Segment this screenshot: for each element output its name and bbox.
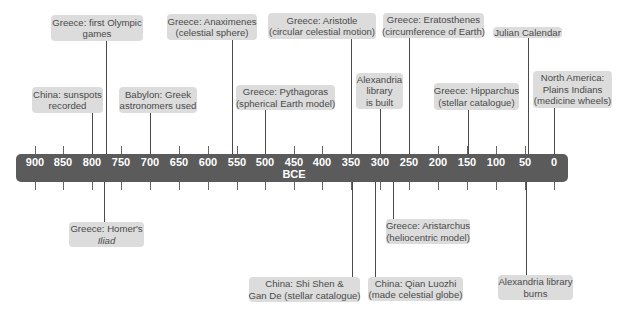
event-text: (medicine wheels): [534, 95, 611, 107]
tick-label: 800: [77, 156, 107, 168]
tick-label: 100: [481, 156, 511, 168]
event-greece-homers-iliad: Greece: Homer's Iliad: [69, 222, 144, 247]
tick: [265, 182, 266, 190]
event-greece-aristotle: Greece: Aristotle (circular celestial mo…: [268, 13, 376, 39]
event-text: Greece: Aristarchus: [386, 220, 470, 232]
tick: [121, 146, 122, 154]
event-text: China: sunspots: [33, 89, 102, 101]
tick-label: 600: [193, 156, 223, 168]
event-china-shi-shen-gan-de: China: Shi Shen & Gan De (stellar catalo…: [249, 277, 360, 302]
event-text: Greece: Homer's: [70, 223, 142, 235]
tick: [63, 182, 64, 190]
event-text: North America:: [541, 72, 604, 84]
event-text: China: Qian Luozhi: [375, 278, 457, 290]
event-text: (stellar catalogue): [438, 97, 514, 109]
tick: [121, 182, 122, 190]
tick: [237, 182, 238, 190]
connector-line: [232, 40, 233, 154]
event-babylon-greek-astronomers: Babylon: Greek astronomers used: [119, 87, 197, 113]
tick: [179, 146, 180, 154]
event-text: China: Shi Shen &: [265, 278, 343, 290]
event-text: Greece: Hipparchus: [434, 85, 519, 97]
event-greece-pythagoras: Greece: Pythagoras (spherical Earth mode…: [236, 85, 335, 110]
tick-label: 450: [279, 156, 309, 168]
tick: [467, 182, 468, 190]
tick-label: 300: [365, 156, 395, 168]
tick-label: 0: [539, 156, 569, 168]
event-text: games: [83, 28, 112, 40]
event-text: is built: [366, 97, 393, 109]
connector-line: [393, 182, 394, 219]
event-text: Greece: Anaximenes: [167, 16, 256, 28]
tick: [380, 182, 381, 190]
event-text: (made celestial globe): [369, 289, 463, 301]
connector-line: [409, 38, 410, 154]
connector-line: [554, 108, 555, 154]
tick: [554, 182, 555, 190]
tick-label: 700: [135, 156, 165, 168]
tick: [322, 146, 323, 154]
event-greece-aristarchus: Greece: Aristarchus (heliocentric model): [386, 219, 470, 244]
connector-line: [265, 110, 266, 154]
connector-line: [352, 182, 353, 277]
tick: [92, 182, 93, 190]
tick: [294, 146, 295, 154]
tick-label: 500: [250, 156, 280, 168]
tick: [208, 146, 209, 154]
connector-line: [375, 182, 376, 277]
tick: [322, 182, 323, 190]
event-text: Julian Calendar: [494, 27, 561, 39]
tick-label: 250: [394, 156, 424, 168]
tick: [208, 182, 209, 190]
event-alexandria-library-built: Alexandria library is built: [356, 73, 403, 109]
event-text: burns: [524, 288, 548, 300]
tick-label: 850: [48, 156, 78, 168]
event-text: (circumference of Earth): [382, 26, 485, 38]
tick: [496, 182, 497, 190]
tick: [525, 146, 526, 154]
event-text: Greece: Eratosthenes: [387, 14, 480, 26]
event-text: (spherical Earth model): [236, 98, 335, 110]
tick: [150, 182, 151, 190]
event-greece-eratosthenes: Greece: Eratosthenes (circumference of E…: [383, 13, 484, 38]
event-text: Plains Indians: [543, 84, 603, 96]
event-greece-olympic-games: Greece: first Olympic games: [51, 15, 143, 41]
tick: [35, 146, 36, 154]
event-text: Alexandria: [357, 74, 402, 86]
event-text: Greece: first Olympic: [52, 17, 142, 29]
connector-line: [380, 109, 381, 154]
tick-label: 750: [106, 156, 136, 168]
tick-label: 650: [164, 156, 194, 168]
tick: [35, 182, 36, 190]
event-text: recorded: [49, 100, 87, 112]
event-julian-calendar: Julian Calendar: [493, 27, 562, 38]
event-text: Greece: Pythagoras: [243, 86, 328, 98]
event-text: Iliad: [98, 235, 116, 247]
event-greece-hipparchus: Greece: Hipparchus (stellar catalogue): [434, 83, 519, 110]
tick: [294, 182, 295, 190]
tick: [179, 182, 180, 190]
connector-line: [92, 113, 93, 154]
connector-line: [526, 182, 527, 275]
event-text: Gan De (stellar catalogue): [249, 290, 361, 302]
tick-label: 400: [307, 156, 337, 168]
event-text: Alexandria library: [498, 276, 572, 288]
tick-label: 200: [423, 156, 453, 168]
event-north-america-medicine-wheels: North America: Plains Indians (medicine …: [533, 71, 612, 108]
tick-label: 900: [20, 156, 50, 168]
connector-line: [351, 39, 352, 154]
event-china-sunspots: China: sunspots recorded: [32, 87, 103, 113]
connector-line: [528, 38, 529, 154]
event-text: (heliocentric model): [386, 232, 470, 244]
event-text: Greece: Aristotle: [287, 15, 358, 27]
event-text: (celestial sphere): [175, 27, 248, 39]
connector-line: [106, 41, 107, 154]
event-text: Babylon: Greek: [125, 89, 191, 101]
connector-line: [150, 113, 151, 154]
tick: [496, 146, 497, 154]
connector-line: [104, 182, 105, 222]
event-text: library: [366, 85, 392, 97]
tick: [409, 182, 410, 190]
tick: [438, 146, 439, 154]
era-label: BCE: [279, 168, 309, 180]
